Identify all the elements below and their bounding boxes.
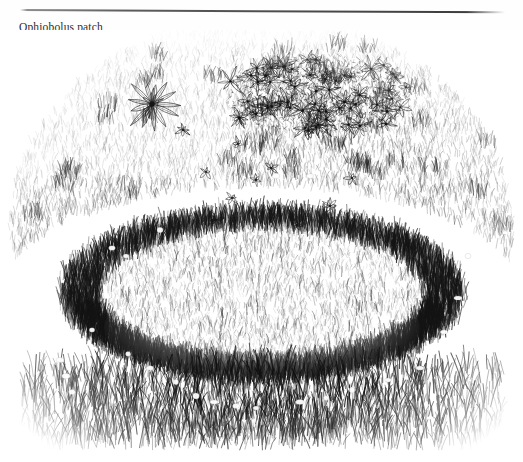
illustration-canvas: [0, 30, 523, 462]
ophiobolus-patch-illustration: [0, 30, 523, 462]
book-page: Ophiobolus patch: [0, 0, 523, 462]
horizontal-rule: [20, 9, 505, 13]
